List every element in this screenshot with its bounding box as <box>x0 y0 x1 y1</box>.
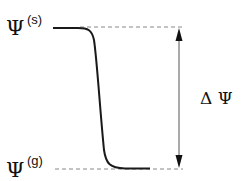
top-label-symbol: Ψ <box>6 16 24 40</box>
arrow-up-icon <box>176 28 183 41</box>
arrow-down-icon <box>176 155 183 168</box>
transition-curve <box>53 28 150 169</box>
delta-psi-label: Δ Ψ <box>200 88 233 108</box>
bottom-label-symbol: Ψ <box>6 158 24 181</box>
top-label-superscript: (s) <box>27 12 42 27</box>
diagram-canvas: Ψ (s) Ψ (g) Δ Ψ <box>0 0 245 181</box>
bottom-label-superscript: (g) <box>27 153 43 168</box>
